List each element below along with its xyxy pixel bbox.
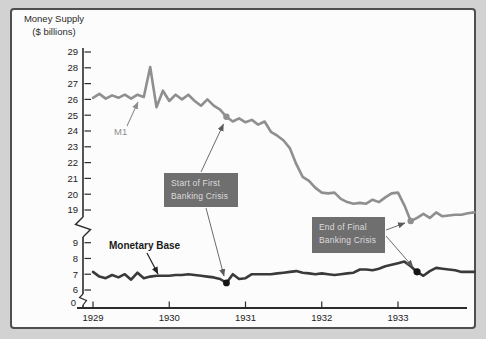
arrow-monetary-base-label	[147, 253, 158, 274]
m1-line	[93, 67, 474, 221]
y-tick-label: 20	[67, 189, 78, 200]
origin-label: 0	[71, 297, 76, 308]
m1-series-label: M1	[114, 126, 127, 137]
end-crisis-m1-dot	[408, 218, 414, 224]
y-tick-label: 28	[67, 62, 78, 73]
x-tick-label: 1930	[159, 312, 180, 323]
money-supply-chart: 2928272625242322212019987601929193019311…	[0, 0, 486, 339]
arrow-start-crisis-to-m1	[201, 124, 224, 172]
y-tick-label: 6	[73, 284, 78, 295]
annotation-end-line2: Banking Crisis	[319, 234, 385, 247]
y-tick-label: 29	[67, 46, 78, 57]
y-tick-label: 7	[73, 269, 78, 280]
chart-title-line1: Money Supply	[16, 13, 92, 26]
annotation-end-banking-crisis: End of Final Banking Crisis	[312, 217, 385, 253]
x-tick-label: 1933	[387, 312, 408, 323]
y-tick-label: 8	[73, 253, 78, 264]
y-tick-label: 27	[67, 78, 78, 89]
arrow-end-crisis-to-m1	[386, 223, 405, 230]
y-tick-label: 25	[67, 110, 78, 121]
origin-axis-break	[80, 294, 87, 305]
chart-title: Money Supply ($ billions)	[16, 13, 92, 38]
annotation-start-line2: Banking Crisis	[171, 190, 238, 203]
y-axis-break	[76, 217, 91, 237]
y-tick-label: 26	[67, 94, 78, 105]
x-tick-label: 1932	[311, 312, 332, 323]
start-crisis-base-dot	[223, 280, 230, 287]
y-tick-label: 21	[67, 173, 78, 184]
chart-title-line2: ($ billions)	[16, 26, 92, 39]
end-crisis-base-dot	[413, 268, 420, 275]
arrow-m1-label	[127, 102, 138, 126]
arrow-start-crisis-to-base	[206, 208, 224, 276]
annotation-end-line1: End of Final	[319, 221, 385, 234]
monetary-base-series-label: Monetary Base	[109, 240, 180, 251]
x-tick-label: 1931	[235, 312, 256, 323]
figure-stage: 2928272625242322212019987601929193019311…	[0, 0, 486, 339]
annotation-start-line1: Start of First	[171, 177, 238, 190]
start-crisis-m1-dot	[223, 114, 229, 120]
y-tick-label: 23	[67, 141, 78, 152]
x-tick-label: 1929	[82, 312, 103, 323]
annotation-start-banking-crisis: Start of First Banking Crisis	[164, 173, 238, 207]
y-tick-label: 19	[67, 204, 78, 215]
y-tick-label: 22	[67, 157, 78, 168]
y-tick-label: 24	[67, 125, 78, 136]
y-tick-label: 9	[73, 237, 78, 248]
